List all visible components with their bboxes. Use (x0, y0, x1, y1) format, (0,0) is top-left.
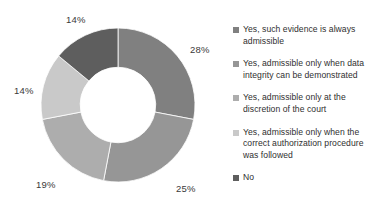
legend-item-label: No (243, 172, 254, 184)
legend-swatch-icon (233, 95, 239, 101)
legend-item[interactable]: Yes, such evidence is always admissible (233, 24, 365, 47)
slice-percent-label: 19% (36, 179, 56, 190)
donut-chart: 28%25%19%14%14% (0, 0, 228, 221)
donut-slice (42, 112, 111, 181)
legend-item-label: Yes, such evidence is always admissible (243, 24, 365, 47)
legend-item-label: Yes, admissible only when data integrity… (243, 58, 365, 81)
legend-swatch-icon (233, 175, 239, 181)
legend-swatch-icon (233, 61, 239, 67)
chart-legend: Yes, such evidence is always admissibleY… (233, 24, 365, 195)
donut-slice (104, 112, 194, 182)
legend-item-label: Yes, admissible only when the correct au… (243, 127, 365, 162)
legend-item-label: Yes, admissible only at the discretion o… (243, 92, 365, 115)
legend-item[interactable]: Yes, admissible only when data integrity… (233, 58, 365, 81)
legend-item[interactable]: Yes, admissible only at the discretion o… (233, 92, 365, 115)
slice-percent-label: 25% (176, 183, 196, 194)
slice-percent-label: 14% (14, 85, 34, 96)
legend-swatch-icon (233, 130, 239, 136)
legend-item[interactable]: No (233, 172, 365, 184)
legend-swatch-icon (233, 27, 239, 33)
legend-item[interactable]: Yes, admissible only when the correct au… (233, 127, 365, 162)
slice-percent-label: 28% (190, 44, 210, 55)
slice-percent-label: 14% (66, 14, 86, 25)
donut-slice (118, 28, 195, 119)
